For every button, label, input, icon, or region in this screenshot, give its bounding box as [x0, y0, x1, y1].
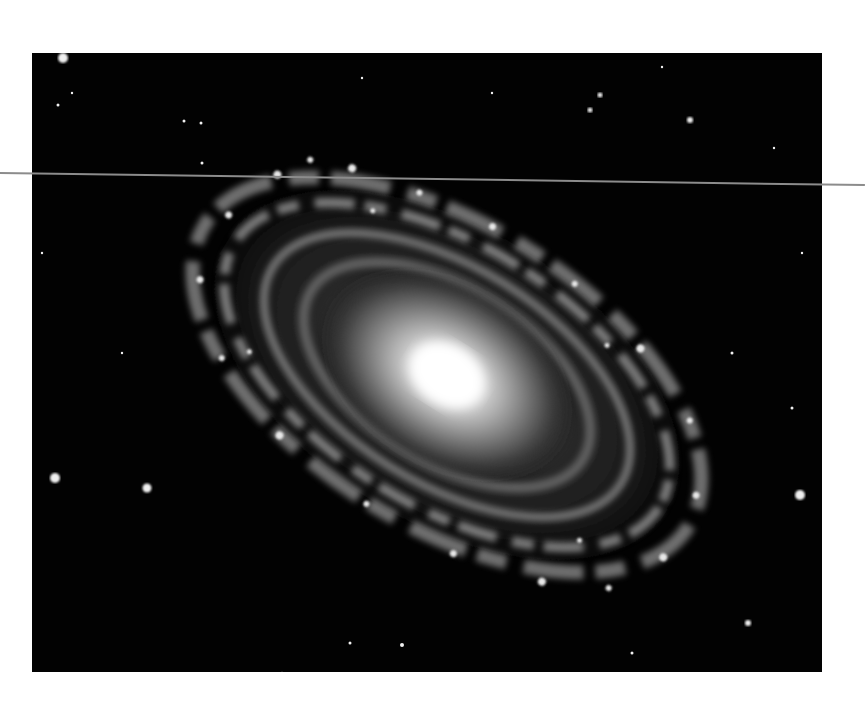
spiral-galaxy [32, 53, 822, 672]
galaxy-disk [102, 72, 791, 672]
galaxy-photo [32, 53, 822, 672]
